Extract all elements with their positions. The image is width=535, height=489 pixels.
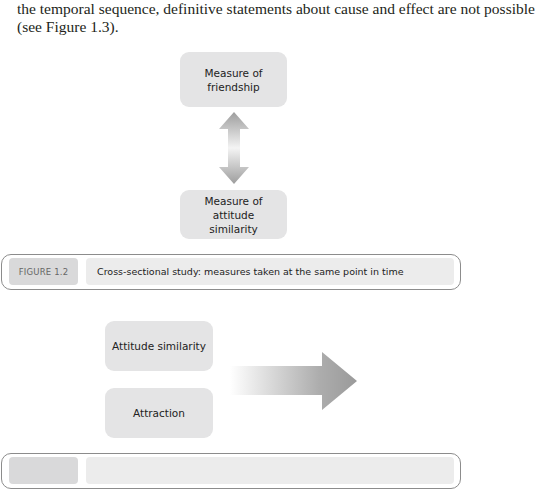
figure-caption-1-3 [1,453,461,489]
box-attraction: Attraction [105,388,213,438]
figure-label-badge: FIGURE 1.2 [9,258,78,285]
box-label: Measure of friendship [180,66,287,94]
body-text-line-2: (see Figure 1.3). [17,18,487,36]
figure-caption-1-2: FIGURE 1.2 Cross-sectional study: measur… [1,254,461,290]
figure-caption-text: Cross-sectional study: measures taken at… [86,258,454,285]
body-paragraph: the temporal sequence, definitive statem… [17,0,487,36]
box-attitude-similarity: Attitude similarity [105,321,213,371]
arrow-right-icon [230,351,358,411]
figure-caption-text [86,457,454,484]
body-text-line-1: the temporal sequence, definitive statem… [17,0,487,18]
box-measure-of-attitude-similarity: Measure of attitude similarity [180,190,287,239]
box-measure-of-friendship: Measure of friendship [180,52,287,107]
box-label: Attitude similarity [112,339,206,353]
box-label: Attraction [133,406,185,420]
figure-label-badge [9,457,78,484]
double-arrow-icon [218,111,250,185]
box-label: Measure of attitude similarity [189,194,279,236]
